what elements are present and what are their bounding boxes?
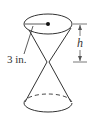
arrow-up-icon [78, 25, 82, 30]
center-dot [46, 22, 50, 26]
double-cone-diagram: h 3 in. [0, 0, 96, 117]
radius-label: 3 in. [7, 53, 27, 65]
lower-cone-left-side [25, 62, 47, 102]
height-label: h [77, 36, 83, 50]
bottom-ellipse-back-dashed [24, 94, 72, 103]
upper-cone-left-side [29, 30, 47, 62]
arrow-down-icon [78, 56, 82, 61]
lower-cone-right-side [49, 62, 71, 102]
bottom-ellipse-front [24, 103, 72, 112]
double-cone-figure: h 3 in. [0, 0, 96, 117]
